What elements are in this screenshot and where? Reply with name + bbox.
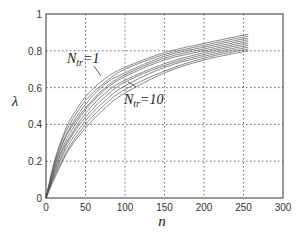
- x-tick-label: 0: [43, 202, 49, 213]
- svg-text:Ntr=10: Ntr=10: [123, 92, 163, 109]
- y-tick-label: 0: [36, 193, 42, 204]
- y-axis-label: λ: [11, 93, 19, 109]
- annotation-ntr-1-main: N: [66, 51, 77, 66]
- y-tick-label: 0.2: [28, 156, 42, 167]
- x-tick-label: 50: [80, 202, 92, 213]
- x-axis-ticks: 050100150200250300: [43, 202, 292, 213]
- y-tick-label: 1: [36, 9, 42, 20]
- x-tick-label: 200: [196, 202, 213, 213]
- annotation-ntr-10-main: N: [123, 92, 134, 107]
- svg-text:Ntr=1: Ntr=1: [66, 51, 99, 68]
- x-tick-label: 150: [156, 202, 173, 213]
- line-chart: 050100150200250300 00.20.40.60.81 n λ Nt…: [0, 0, 308, 236]
- annotation-ntr-1-leader: [94, 66, 101, 76]
- annotation-ntr-10-rest: =10: [140, 92, 163, 107]
- y-tick-label: 0.4: [28, 119, 42, 130]
- x-tick-label: 100: [117, 202, 134, 213]
- y-axis-ticks: 00.20.40.60.81: [28, 9, 42, 204]
- x-axis-label: n: [158, 213, 166, 229]
- annotation-ntr-1: Ntr=1: [66, 51, 101, 76]
- curve-ntr-9: [46, 49, 248, 198]
- annotation-ntr-1-rest: =1: [83, 51, 99, 66]
- y-tick-label: 0.8: [28, 46, 42, 57]
- x-tick-label: 300: [275, 202, 292, 213]
- y-tick-label: 0.6: [28, 83, 42, 94]
- x-tick-label: 250: [235, 202, 252, 213]
- curve-ntr-7: [46, 45, 248, 198]
- annotation-ntr-10: Ntr=10: [123, 82, 163, 109]
